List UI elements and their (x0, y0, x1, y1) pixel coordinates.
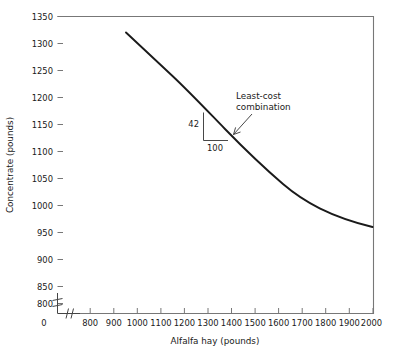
y-axis-ticks (58, 17, 64, 304)
y-tick-label: 850 (37, 282, 53, 292)
y-axis-title: Concentrate (pounds) (5, 117, 15, 213)
run-label: 100 (207, 143, 223, 153)
y-axis-tick-labels: 1350 1300 1250 1200 1150 1100 1050 1000 … (32, 12, 53, 309)
x-tick-label: 1700 (292, 318, 313, 328)
y-tick-label: 1150 (32, 120, 53, 130)
y-tick-label: 900 (37, 255, 53, 265)
x-origin-label: 0 (41, 318, 46, 328)
y-tick-label: 1300 (32, 39, 53, 49)
x-axis-title: Alfalfa hay (pounds) (171, 336, 260, 346)
slope-annotation: 42 100 (188, 113, 228, 154)
x-tick-label: 1900 (339, 318, 360, 328)
isoquant-chart: 1350 1300 1250 1200 1150 1100 1050 1000 … (0, 0, 393, 363)
y-tick-label: 1050 (32, 174, 53, 184)
x-tick-label: 1400 (221, 318, 242, 328)
rise-label: 42 (188, 119, 199, 129)
least-cost-combination-annotation: Least-cost combination (234, 91, 291, 135)
x-tick-label: 1500 (244, 318, 265, 328)
x-tick-label: 1000 (127, 318, 148, 328)
data-curve (126, 33, 373, 228)
y-tick-label: 1200 (32, 93, 53, 103)
x-tick-label: 800 (82, 318, 98, 328)
x-tick-label: 1300 (197, 318, 218, 328)
least-cost-line-2: combination (236, 102, 291, 112)
y-tick-label: 950 (37, 228, 53, 238)
y-tick-label: 1100 (32, 147, 53, 157)
plot-frame (58, 17, 374, 314)
x-tick-label: 900 (106, 318, 122, 328)
x-tick-label: 1100 (150, 318, 171, 328)
x-tick-label: 2000 (361, 318, 382, 328)
y-tick-label: 1350 (32, 12, 53, 22)
y-tick-label: 800 (37, 299, 53, 309)
x-tick-label: 1600 (268, 318, 289, 328)
x-tick-label: 1800 (315, 318, 336, 328)
x-tick-label: 1200 (174, 318, 195, 328)
chart-figure: 1350 1300 1250 1200 1150 1100 1050 1000 … (0, 0, 393, 363)
x-axis-tick-labels: 0 800 900 1000 1100 1200 1300 1400 1500 … (41, 318, 382, 328)
y-tick-label: 1250 (32, 66, 53, 76)
x-axis-ticks (90, 308, 373, 314)
y-tick-label: 1000 (32, 201, 53, 211)
x-axis-break-icon (58, 309, 81, 319)
least-cost-line-1: Least-cost (236, 91, 282, 101)
